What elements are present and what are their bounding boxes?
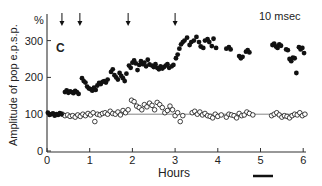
data-point-filled xyxy=(279,43,284,48)
chart: 0100200300 0123456 % C 10 msec Hours Amp… xyxy=(0,0,322,186)
data-point-open xyxy=(152,107,157,112)
data-point-filled xyxy=(211,36,216,41)
data-point-filled xyxy=(240,54,245,59)
data-point-filled xyxy=(128,65,133,70)
data-point-filled xyxy=(300,46,305,51)
data-point-open xyxy=(234,116,239,121)
y-tick-label: 300 xyxy=(25,35,43,47)
data-point-filled xyxy=(122,79,127,84)
control-series xyxy=(60,98,307,124)
data-point-filled xyxy=(201,46,206,51)
data-point-filled xyxy=(209,44,214,49)
data-point-open xyxy=(170,107,175,112)
data-point-filled xyxy=(194,35,199,40)
x-tick-label: 6 xyxy=(300,154,306,166)
data-point-filled xyxy=(185,35,190,40)
data-point-open xyxy=(118,113,123,118)
data-point-filled xyxy=(285,48,290,53)
data-point-filled xyxy=(175,52,180,57)
data-point-filled xyxy=(124,71,129,76)
data-point-open xyxy=(219,113,224,118)
x-tick-label: 0 xyxy=(44,154,50,166)
data-point-filled xyxy=(207,40,212,45)
panel-label: C xyxy=(56,41,65,55)
data-point-open xyxy=(150,103,155,108)
data-point-filled xyxy=(214,46,219,51)
arrow-head-icon xyxy=(173,21,178,26)
data-point-filled xyxy=(247,50,252,55)
tetanus-arrows xyxy=(59,13,177,26)
data-point-open xyxy=(93,119,98,124)
data-point-filled xyxy=(228,47,233,52)
x-tick-label: 2 xyxy=(129,154,135,166)
data-point-open xyxy=(132,99,137,104)
data-point-open xyxy=(139,107,144,112)
x-tick-label: 5 xyxy=(257,154,263,166)
data-point-open xyxy=(175,110,180,115)
arrow-head-icon xyxy=(77,21,82,26)
data-point-open xyxy=(178,119,183,124)
y-axis-label: Amplitude of pop e.p.s.p. xyxy=(7,24,19,146)
arrow-head-icon xyxy=(126,21,131,26)
data-point-filled xyxy=(76,92,81,97)
data-point-open xyxy=(165,108,170,113)
data-point-filled xyxy=(171,62,176,67)
data-point-open xyxy=(251,113,256,118)
x-tick-label: 4 xyxy=(215,154,221,166)
data-point-filled xyxy=(115,77,120,82)
data-point-filled xyxy=(110,67,115,72)
data-point-filled xyxy=(93,88,98,93)
x-axis-label: Hours xyxy=(158,166,190,180)
data-point-filled xyxy=(105,77,110,82)
tetanized-series xyxy=(45,35,306,119)
data-point-filled xyxy=(197,40,202,45)
data-point-open xyxy=(126,107,131,112)
data-point-filled xyxy=(135,68,140,73)
x-tick-label: 1 xyxy=(87,154,93,166)
data-point-open xyxy=(303,112,308,117)
data-point-filled xyxy=(59,112,64,117)
data-point-filled xyxy=(145,57,150,62)
x-ticks: 0123456 xyxy=(44,148,306,166)
data-point-filled xyxy=(294,71,299,76)
data-point-open xyxy=(180,113,185,118)
y-tick-label: 200 xyxy=(25,71,43,83)
y-unit-label: % xyxy=(34,14,44,26)
time-annotation: 10 msec xyxy=(259,10,301,22)
y-tick-label: 100 xyxy=(25,108,43,120)
arrow-head-icon xyxy=(59,21,64,26)
y-tick-label: 0 xyxy=(37,145,43,157)
data-point-filled xyxy=(177,46,182,51)
data-point-filled xyxy=(302,51,307,56)
data-point-filled xyxy=(292,56,297,61)
x-tick-label: 3 xyxy=(172,154,178,166)
data-point-open xyxy=(160,105,165,110)
